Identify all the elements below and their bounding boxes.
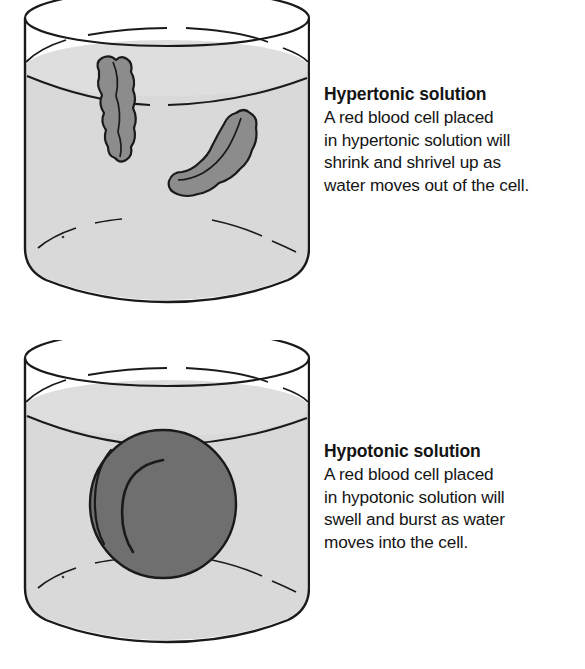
beaker-hypertonic <box>0 0 310 330</box>
panel-hypotonic: Hypotonic solution A red blood cell plac… <box>0 340 585 669</box>
water-fill-hypertonic <box>25 32 309 305</box>
body-line-4: moves into the cell. <box>324 531 581 554</box>
body-line-4: water moves out of the cell. <box>324 174 581 197</box>
heading-hypotonic: Hypotonic solution <box>324 440 581 462</box>
body-line-3: swell and burst as water <box>324 508 581 531</box>
body-line-1: A red blood cell placed <box>324 106 581 129</box>
body-line-1: A red blood cell placed <box>324 463 581 486</box>
body-line-3: shrink and shrivel up as <box>324 151 581 174</box>
panel-hypertonic: Hypertonic solution A red blood cell pla… <box>0 0 585 330</box>
text-block-hypotonic: Hypotonic solution A red blood cell plac… <box>310 340 585 553</box>
body-line-2: in hypertonic solution will <box>324 129 581 152</box>
swollen-cell-1 <box>90 430 236 578</box>
text-block-hypertonic: Hypertonic solution A red blood cell pla… <box>310 0 585 196</box>
beaker-hypotonic <box>0 340 310 669</box>
beaker-speck <box>62 236 65 239</box>
beaker-speck <box>62 576 65 579</box>
beaker-hypertonic-illustration <box>0 0 310 330</box>
beaker-hypotonic-illustration <box>0 340 310 669</box>
body-line-2: in hypotonic solution will <box>324 486 581 509</box>
heading-hypertonic: Hypertonic solution <box>324 83 581 105</box>
